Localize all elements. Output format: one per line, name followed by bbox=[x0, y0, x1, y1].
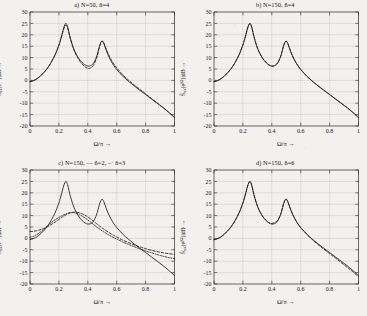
svg-text:0.8: 0.8 bbox=[325, 286, 332, 292]
svg-text:-10: -10 bbox=[20, 100, 28, 106]
svg-text:15: 15 bbox=[22, 43, 28, 49]
svg-text:10: 10 bbox=[22, 55, 28, 61]
panel-a: a) N=50, n̂=4 Ŝxx(ejΩ)|dB → 00.20.40.60.… bbox=[0, 0, 184, 158]
svg-text:5: 5 bbox=[208, 224, 211, 230]
svg-text:0: 0 bbox=[208, 77, 211, 83]
panel-d-xlabel: Ω/π → bbox=[214, 298, 359, 305]
panel-c: c) N=150, ‒‒ n̂=2, ‒· n̂=3 Ŝxx(ejΩ)|dB →… bbox=[0, 158, 184, 316]
svg-text:30: 30 bbox=[22, 9, 28, 15]
svg-text:0.4: 0.4 bbox=[268, 128, 275, 134]
svg-text:20: 20 bbox=[22, 190, 28, 196]
svg-text:-5: -5 bbox=[23, 89, 28, 95]
svg-text:-15: -15 bbox=[203, 270, 211, 276]
ylabel-shat: Ŝ bbox=[0, 251, 2, 254]
svg-text:0: 0 bbox=[212, 128, 215, 134]
svg-text:0.4: 0.4 bbox=[84, 286, 91, 292]
panel-c-title: c) N=150, ‒‒ n̂=2, ‒· n̂=3 bbox=[0, 159, 184, 167]
panel-c-svg bbox=[30, 170, 175, 284]
ylabel-shat: Ŝ bbox=[0, 93, 2, 96]
svg-text:0.2: 0.2 bbox=[55, 286, 62, 292]
svg-text:30: 30 bbox=[22, 167, 28, 173]
svg-text:20: 20 bbox=[22, 32, 28, 38]
panel-c-ylabel: Ŝxx(ejΩ)|dB → bbox=[0, 220, 3, 255]
svg-text:-15: -15 bbox=[203, 112, 211, 118]
svg-text:-5: -5 bbox=[206, 89, 211, 95]
panel-b-plot-area: 00.20.40.60.81302520151050-5-10-15-20 bbox=[214, 12, 359, 126]
svg-text:-20: -20 bbox=[203, 123, 211, 129]
svg-text:25: 25 bbox=[205, 179, 211, 185]
svg-text:5: 5 bbox=[25, 66, 28, 72]
svg-text:0.6: 0.6 bbox=[113, 286, 120, 292]
figure-grid: a) N=50, n̂=4 Ŝxx(ejΩ)|dB → 00.20.40.60.… bbox=[0, 0, 367, 316]
svg-text:0: 0 bbox=[25, 235, 28, 241]
panel-a-plot-area: 00.20.40.60.81302520151050-5-10-15-20 bbox=[30, 12, 175, 126]
panel-b-ylabel: Ŝxx(ejΩ)|dB → bbox=[179, 62, 187, 97]
svg-text:-20: -20 bbox=[203, 281, 211, 287]
svg-text:20: 20 bbox=[205, 190, 211, 196]
svg-text:-10: -10 bbox=[203, 258, 211, 264]
svg-text:0.4: 0.4 bbox=[84, 128, 91, 134]
svg-text:0: 0 bbox=[208, 235, 211, 241]
panel-d-ylabel: Ŝxx(ejΩ)|dB → bbox=[179, 220, 187, 255]
panel-b: b) N=150, n̂=4 Ŝxx(ejΩ)|dB → 00.20.40.60… bbox=[184, 0, 367, 158]
panel-a-svg bbox=[30, 12, 175, 126]
panel-c-plot-area: 00.20.40.60.81302520151050-5-10-15-20 bbox=[30, 170, 175, 284]
svg-text:-5: -5 bbox=[23, 247, 28, 253]
svg-text:25: 25 bbox=[22, 21, 28, 27]
svg-text:0.6: 0.6 bbox=[113, 128, 120, 134]
svg-text:-20: -20 bbox=[20, 123, 28, 129]
panel-d: d) N=150, n̂=6 Ŝxx(ejΩ)|dB → 00.20.40.60… bbox=[184, 158, 367, 316]
panel-d-plot-area: 00.20.40.60.81302520151050-5-10-15-20 bbox=[214, 170, 359, 284]
svg-text:10: 10 bbox=[205, 55, 211, 61]
svg-text:0: 0 bbox=[212, 286, 215, 292]
panel-c-xlabel: Ω/π → bbox=[30, 298, 175, 305]
svg-text:5: 5 bbox=[25, 224, 28, 230]
svg-text:30: 30 bbox=[205, 9, 211, 15]
svg-text:-20: -20 bbox=[20, 281, 28, 287]
svg-text:0.4: 0.4 bbox=[268, 286, 275, 292]
svg-text:-15: -15 bbox=[20, 270, 28, 276]
svg-text:0: 0 bbox=[29, 128, 32, 134]
svg-text:0.2: 0.2 bbox=[55, 128, 62, 134]
svg-text:-15: -15 bbox=[20, 112, 28, 118]
svg-text:0.8: 0.8 bbox=[142, 286, 149, 292]
panel-b-xlabel: Ω/π → bbox=[214, 140, 359, 147]
svg-text:20: 20 bbox=[205, 32, 211, 38]
svg-text:0.6: 0.6 bbox=[296, 286, 303, 292]
svg-text:-10: -10 bbox=[20, 258, 28, 264]
panel-b-title: b) N=150, n̂=4 bbox=[184, 1, 367, 9]
panel-d-title: d) N=150, n̂=6 bbox=[184, 159, 367, 167]
svg-text:0.8: 0.8 bbox=[325, 128, 332, 134]
svg-text:0.6: 0.6 bbox=[296, 128, 303, 134]
svg-text:10: 10 bbox=[22, 213, 28, 219]
svg-text:0: 0 bbox=[29, 286, 32, 292]
svg-text:15: 15 bbox=[205, 201, 211, 207]
svg-text:1: 1 bbox=[357, 286, 360, 292]
svg-text:0.8: 0.8 bbox=[142, 128, 149, 134]
svg-text:25: 25 bbox=[22, 179, 28, 185]
ylabel-shat: Ŝ bbox=[180, 93, 186, 96]
svg-text:15: 15 bbox=[205, 43, 211, 49]
panel-d-svg bbox=[214, 170, 359, 284]
svg-text:5: 5 bbox=[208, 66, 211, 72]
panel-a-title: a) N=50, n̂=4 bbox=[0, 1, 184, 9]
svg-text:1: 1 bbox=[173, 286, 176, 292]
ylabel-shat: Ŝ bbox=[180, 251, 186, 254]
svg-text:15: 15 bbox=[22, 201, 28, 207]
svg-text:0.2: 0.2 bbox=[239, 128, 246, 134]
svg-text:-5: -5 bbox=[206, 247, 211, 253]
svg-text:10: 10 bbox=[205, 213, 211, 219]
panel-b-svg bbox=[214, 12, 359, 126]
svg-text:0: 0 bbox=[25, 77, 28, 83]
svg-text:-10: -10 bbox=[203, 100, 211, 106]
svg-text:0.2: 0.2 bbox=[239, 286, 246, 292]
panel-a-xlabel: Ω/π → bbox=[30, 140, 175, 147]
svg-text:25: 25 bbox=[205, 21, 211, 27]
svg-text:1: 1 bbox=[357, 128, 360, 134]
svg-text:1: 1 bbox=[173, 128, 176, 134]
svg-text:30: 30 bbox=[205, 167, 211, 173]
panel-a-ylabel: Ŝxx(ejΩ)|dB → bbox=[0, 62, 3, 97]
